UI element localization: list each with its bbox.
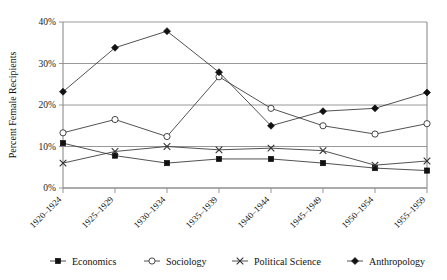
marker-filled-diamond bbox=[320, 108, 327, 115]
marker-filled-square bbox=[164, 161, 169, 166]
x-tick-label: 1940–1944 bbox=[236, 194, 272, 230]
y-axis-title: Percent Female Recipients bbox=[7, 52, 18, 159]
legend-label-text: Anthropology bbox=[369, 256, 425, 267]
legend-item-economics: Economics bbox=[50, 256, 117, 267]
marker-filled-square bbox=[268, 156, 273, 161]
legend-item-anthropology: Anthropology bbox=[347, 256, 425, 267]
line-chart: 0%10%20%30%40% 1920–19241925–19291930–19… bbox=[0, 0, 447, 280]
series-economics bbox=[60, 141, 429, 174]
y-tick-label: 40% bbox=[39, 17, 57, 27]
y-tick-label: 30% bbox=[39, 59, 57, 69]
y-tick-labels: 0%10%20%30%40% bbox=[39, 17, 57, 193]
marker-filled-diamond bbox=[372, 105, 379, 112]
series-group bbox=[60, 28, 431, 174]
series-line-path bbox=[63, 31, 427, 126]
marker-open-circle bbox=[112, 116, 118, 122]
x-tick-label: 1920–1924 bbox=[28, 194, 64, 230]
marker-filled-square bbox=[320, 161, 325, 166]
y-tick-label: 10% bbox=[39, 142, 57, 152]
marker-open-circle bbox=[320, 123, 326, 129]
x-tick-label: 1955–1959 bbox=[392, 194, 428, 230]
marker-filled-diamond bbox=[424, 89, 431, 96]
x-tick-label: 1925–1929 bbox=[80, 194, 116, 230]
marker-filled-diamond bbox=[352, 258, 359, 265]
y-tick-label: 20% bbox=[39, 100, 57, 110]
chart-legend: EconomicsSociologyPolitical ScienceAnthr… bbox=[50, 256, 425, 267]
marker-filled-square bbox=[424, 168, 429, 173]
marker-open-circle bbox=[60, 130, 66, 136]
marker-filled-square bbox=[55, 258, 60, 263]
legend-label-text: Sociology bbox=[166, 256, 207, 267]
marker-open-circle bbox=[372, 131, 378, 137]
x-tick-marks bbox=[63, 188, 427, 193]
x-tick-labels: 1920–19241925–19291930–19341935–19391940… bbox=[28, 194, 428, 230]
legend-label-text: Political Science bbox=[254, 256, 321, 267]
x-tick-label: 1930–1934 bbox=[132, 194, 168, 230]
marker-filled-square bbox=[216, 156, 221, 161]
chart-container: 0%10%20%30%40% 1920–19241925–19291930–19… bbox=[0, 0, 447, 280]
marker-open-circle bbox=[268, 105, 274, 111]
y-axis-title-text: Percent Female Recipients bbox=[7, 52, 18, 159]
x-tick-label: 1935–1939 bbox=[184, 194, 220, 230]
legend-item-political-science: Political Science bbox=[232, 256, 321, 267]
marker-open-circle bbox=[164, 133, 170, 139]
marker-open-circle bbox=[424, 121, 430, 127]
x-tick-label: 1945–1949 bbox=[288, 194, 324, 230]
marker-filled-square bbox=[60, 141, 65, 146]
series-line-path bbox=[63, 77, 427, 137]
legend-label-text: Economics bbox=[72, 256, 117, 267]
marker-open-circle bbox=[149, 258, 155, 264]
series-anthropology bbox=[60, 28, 431, 130]
y-tick-label: 0% bbox=[43, 183, 56, 193]
legend-item-sociology: Sociology bbox=[144, 256, 207, 267]
x-tick-label: 1950–1954 bbox=[340, 194, 376, 230]
